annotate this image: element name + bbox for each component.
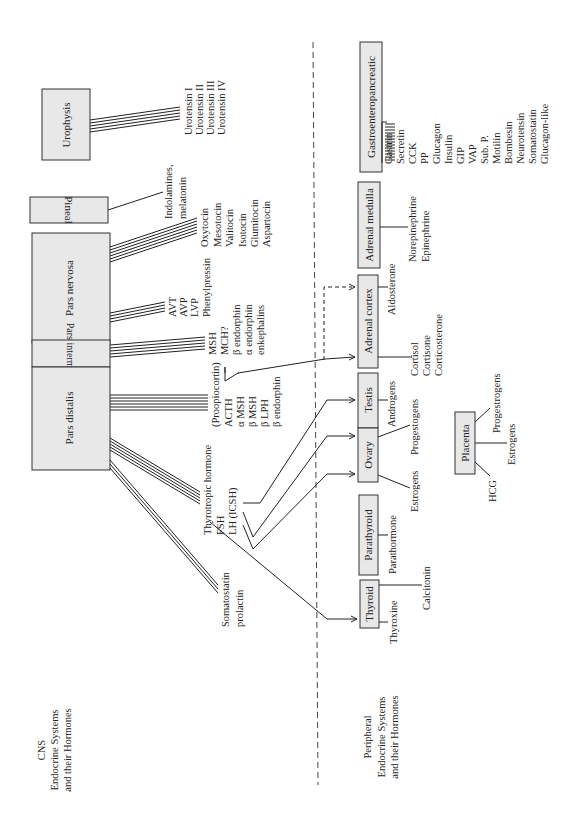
gland-gastroenteropancreatic-label: Gastroenteropancreatic xyxy=(365,56,377,158)
adrenal-cortex-hormones-b: Cortisol Cortisone Corticosterone xyxy=(409,314,444,376)
diagram-canvas: Urophysis Pineal Pars nervosa Pars inter… xyxy=(0,0,582,821)
svg-text:Gastrin: Gastrin xyxy=(383,132,394,164)
svg-text:Isotocin: Isotocin xyxy=(237,212,248,247)
svg-text:Endocrine Systems: Endocrine Systems xyxy=(376,697,387,778)
svg-text:Neurotensin: Neurotensin xyxy=(515,112,526,164)
svg-text:melatonin: melatonin xyxy=(177,176,188,219)
gland-ovary-label: Ovary xyxy=(362,441,374,469)
svg-text:Urotensin II: Urotensin II xyxy=(194,83,205,135)
pars-distalis-gonad-lines xyxy=(110,438,200,504)
gland-parathyroid-label: Parathyroid xyxy=(362,509,374,561)
svg-text:LVP: LVP xyxy=(189,298,200,317)
svg-text:Aspartocin: Aspartocin xyxy=(261,200,272,247)
cns-peripheral-divider xyxy=(313,42,318,785)
svg-text:Corticosterone: Corticosterone xyxy=(433,314,444,376)
svg-text:Somatostatin: Somatostatin xyxy=(527,108,538,164)
ovary-hormone-a: Progestogens xyxy=(409,399,420,455)
svg-text:Urotensin III: Urotensin III xyxy=(205,80,216,135)
placenta-line-c xyxy=(475,462,490,476)
svg-text:Peripheral: Peripheral xyxy=(362,715,373,758)
pars-nervosa-lines-b xyxy=(110,302,165,322)
svg-text:Bombesin: Bombesin xyxy=(503,121,514,164)
cns-section-caption: CNS Endocrine Systems and their Hormones xyxy=(36,708,73,791)
urophysis-lines xyxy=(90,107,180,132)
svg-text:AVP: AVP xyxy=(178,297,189,317)
svg-text:CCK: CCK xyxy=(407,142,418,164)
pineal-hormones: Indolamines, melatonin xyxy=(163,164,188,219)
svg-text:ACTH: ACTH xyxy=(223,398,234,427)
svg-text:Somatostatin: Somatostatin xyxy=(220,571,231,627)
svg-text:β LPH: β LPH xyxy=(259,399,270,427)
gland-testis-label: Testis xyxy=(362,387,374,413)
pars-nervosa-lines-a xyxy=(110,218,197,262)
ovary-hormone-b: Estrogens xyxy=(409,471,420,512)
gland-urophysis-label: Urophysis xyxy=(60,102,72,147)
svg-text:Glucagon-like: Glucagon-like xyxy=(539,104,550,164)
pars-intermedia-hormones: MSH MCH? β endorphin α endorphin enkepha… xyxy=(207,304,266,355)
svg-text:Cortisone: Cortisone xyxy=(421,335,432,376)
gland-pineal-label: Pineal xyxy=(63,196,75,224)
svg-text:Glumitocin: Glumitocin xyxy=(249,198,260,247)
pars-intermedia-lines xyxy=(110,337,205,357)
svg-text:Endocrine Systems: Endocrine Systems xyxy=(49,710,60,791)
svg-text:prolactin: prolactin xyxy=(234,589,245,627)
svg-text:Insulin: Insulin xyxy=(443,134,454,164)
svg-text:AVT: AVT xyxy=(167,296,178,317)
svg-text:Secretin: Secretin xyxy=(395,129,406,164)
pineal-line xyxy=(108,192,163,210)
svg-text:Urotensin I: Urotensin I xyxy=(183,87,194,135)
ovary-line-b xyxy=(378,475,410,488)
gland-thyroid-label: Thyroid xyxy=(363,586,375,622)
svg-text:Norepinephrine: Norepinephrine xyxy=(407,196,418,262)
pars-distalis-pomc-lines xyxy=(110,395,208,410)
testis-hormone: Androgens xyxy=(386,381,397,427)
parathyroid-hormone: Parathormone xyxy=(387,515,398,574)
placenta-hormone-c: HCG xyxy=(487,479,498,502)
svg-text:Valitocin: Valitocin xyxy=(224,208,235,247)
svg-text:α endorphin: α endorphin xyxy=(243,304,254,355)
svg-text:Phenylpressin: Phenylpressin xyxy=(201,257,212,317)
gland-placenta-label: Placenta xyxy=(459,424,471,461)
svg-text:Indolamines,: Indolamines, xyxy=(163,164,174,219)
gastro-hormones: Gastrin Secretin CCK PP Glucagon Insulin… xyxy=(383,104,550,164)
placenta-hormone-b: Estrogens xyxy=(506,424,517,465)
svg-text:enkephalins: enkephalins xyxy=(255,305,266,355)
svg-text:β endorphin: β endorphin xyxy=(271,376,282,427)
svg-text:(Proopiocortin): (Proopiocortin) xyxy=(210,362,222,427)
gland-adrenal-cortex-label: Adrenal cortex xyxy=(362,288,374,354)
gland-adrenal-medulla-label: Adrenal medulla xyxy=(363,188,375,262)
urophysis-hormones: Urotensin I Urotensin II Urotensin III U… xyxy=(183,79,227,135)
tsh-arrow-thyroid xyxy=(210,522,357,622)
svg-text:α MSH: α MSH xyxy=(235,396,246,427)
placenta-hormone-a: Progestrogens xyxy=(491,374,502,434)
svg-text:β endorphin: β endorphin xyxy=(231,304,242,355)
svg-text:Oxytocin: Oxytocin xyxy=(199,207,210,247)
fsh-arrow-ovary xyxy=(243,433,355,537)
svg-text:Glucagon: Glucagon xyxy=(431,122,442,164)
adrenal-medulla-hormones: Norepinephrine Epinephrine xyxy=(407,196,431,262)
peripheral-section-caption: Peripheral Endocrine Systems and their H… xyxy=(362,695,400,778)
pars-nervosa-hormones-b: AVT AVP LVP Phenylpressin xyxy=(167,257,212,317)
svg-text:β MSH: β MSH xyxy=(247,396,258,427)
pars-distalis-gonad-hormones: Thyrotropic hormone FSH LH (ICSH) xyxy=(202,445,239,535)
svg-text:PP: PP xyxy=(419,152,430,164)
svg-text:Motilin: Motilin xyxy=(491,132,502,164)
svg-text:Sub. P.: Sub. P. xyxy=(479,135,490,164)
svg-text:VAP: VAP xyxy=(467,144,478,164)
svg-text:Urotensin IV: Urotensin IV xyxy=(216,79,227,135)
svg-text:Cortisol: Cortisol xyxy=(409,342,420,376)
svg-text:LH (ICSH): LH (ICSH) xyxy=(227,487,239,535)
svg-text:FSH: FSH xyxy=(215,515,226,535)
lh-arrow-ovary xyxy=(243,471,355,549)
svg-text:Epinephrine: Epinephrine xyxy=(420,210,431,262)
endocrine-diagram: Urophysis Pineal Pars nervosa Pars inter… xyxy=(0,0,582,821)
svg-text:CNS: CNS xyxy=(36,740,47,761)
thyroid-hormone-a: Calcitonin xyxy=(421,566,432,610)
svg-text:MCH?: MCH? xyxy=(219,326,230,355)
gland-pars-nervosa-label: Pars nervosa xyxy=(63,260,75,316)
adrenal-cortex-hormone-a: Aldosterone xyxy=(386,263,397,315)
pars-nervosa-hormones-a: Oxytocin Mesotocin Valitocin Isotocin Gl… xyxy=(199,198,272,247)
gland-pars-distalis-label: Pars distalis xyxy=(63,392,75,445)
svg-text:and their Hormones: and their Hormones xyxy=(389,695,400,778)
svg-text:MSH: MSH xyxy=(207,332,218,355)
